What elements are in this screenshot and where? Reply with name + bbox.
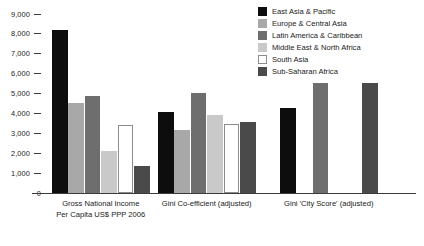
legend-color-swatch (258, 67, 267, 76)
y-axis-tick-mark (34, 53, 41, 54)
y-axis-tick-mark (34, 113, 41, 114)
legend-item[interactable]: Europe & Central Asia (258, 18, 362, 28)
x-axis-baseline (32, 193, 416, 194)
legend-color-swatch (258, 7, 267, 16)
y-axis-tick: 4,000 (11, 107, 44, 119)
x-axis-category-label-line: Per Capita US$ PPP 2006 (21, 210, 181, 221)
x-axis-category-label-line: Gini 'City Score' (adjusted) (249, 199, 409, 210)
bar (158, 112, 174, 193)
bar (313, 83, 329, 193)
y-axis-tick: 1,000 (11, 167, 44, 179)
y-axis-tick-mark (34, 73, 41, 74)
legend-item-label: East Asia & Pacific (272, 7, 335, 16)
legend-item-label: Europe & Central Asia (272, 19, 347, 28)
bar (85, 96, 101, 193)
y-axis-tick: 2,000 (11, 147, 44, 159)
bar (191, 93, 207, 193)
y-axis-tick: 5,000 (11, 88, 44, 100)
bar (52, 30, 68, 193)
bar-chart: 9,0008,0007,0006,0005,0004,0003,0002,000… (0, 0, 424, 246)
x-axis-category-label: Gini 'City Score' (adjusted) (249, 199, 409, 210)
bar (174, 130, 190, 193)
y-axis-tick-mark (34, 93, 41, 94)
bar (101, 151, 117, 193)
y-axis-tick: 8,000 (11, 28, 44, 40)
legend-item-label: Sub-Saharan Africa (272, 67, 338, 76)
y-axis-tick: 9,000 (11, 8, 44, 20)
y-axis-tick: 7,000 (11, 48, 44, 60)
legend-color-swatch (258, 43, 267, 52)
bar (68, 103, 84, 193)
legend-item[interactable]: Sub-Saharan Africa (258, 66, 362, 76)
bar-group (158, 14, 256, 193)
y-axis-tick-label: 4,000 (11, 109, 30, 118)
bar (224, 124, 240, 193)
y-axis-tick: 6,000 (11, 68, 44, 80)
y-axis-tick-label: 9,000 (11, 10, 30, 19)
legend-item-label: Middle East & North Africa (272, 43, 361, 52)
y-axis-tick-mark (34, 14, 41, 15)
bar (134, 166, 150, 193)
legend-color-swatch (258, 55, 267, 64)
y-axis-tick-mark (34, 33, 41, 34)
bar (207, 115, 223, 193)
legend-item[interactable]: Middle East & North Africa (258, 42, 362, 52)
y-axis-tick-label: 5,000 (11, 89, 30, 98)
y-axis-tick-label: 7,000 (11, 49, 30, 58)
legend-color-swatch (258, 31, 267, 40)
legend-item[interactable]: East Asia & Pacific (258, 6, 362, 16)
legend-item[interactable]: Latin America & Caribbean (258, 30, 362, 40)
bar (118, 125, 134, 193)
y-axis-tick-label: 1,000 (11, 169, 30, 178)
legend-color-swatch (258, 19, 267, 28)
y-axis-tick-label: 6,000 (11, 69, 30, 78)
bar (240, 122, 256, 193)
y-axis-tick-mark (34, 133, 41, 134)
y-axis-tick-label: 3,000 (11, 129, 30, 138)
chart-legend: East Asia & PacificEurope & Central Asia… (258, 6, 362, 76)
legend-item-label: South Asia (272, 55, 308, 64)
y-axis-tick-label: 8,000 (11, 29, 30, 38)
bar (362, 83, 378, 193)
legend-item-label: Latin America & Caribbean (272, 31, 362, 40)
y-axis-tick: 3,000 (11, 127, 44, 139)
bar (280, 108, 296, 193)
legend-item[interactable]: South Asia (258, 54, 362, 64)
y-axis-tick-mark (34, 173, 41, 174)
y-axis-tick-mark (34, 153, 41, 154)
bar-group (52, 14, 150, 193)
y-axis-tick-label: 2,000 (11, 149, 30, 158)
